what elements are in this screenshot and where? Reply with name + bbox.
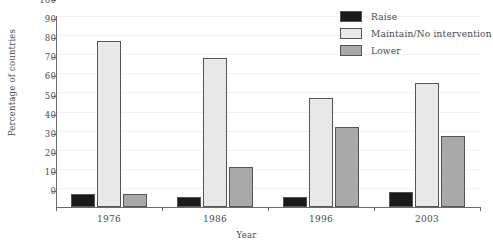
x-tick-mark xyxy=(374,207,375,211)
x-tick-label: 1986 xyxy=(185,214,245,224)
bar xyxy=(229,167,253,207)
legend-label-raise: Raise xyxy=(371,12,397,22)
bar xyxy=(309,98,333,207)
legend-item-raise: Raise xyxy=(340,9,492,24)
y-tick-mark xyxy=(52,0,56,1)
x-tick-label: 2003 xyxy=(397,214,457,224)
x-tick-label: 1996 xyxy=(291,214,351,224)
legend-item-lower: Lower xyxy=(340,43,492,58)
legend-swatch-raise xyxy=(340,11,362,22)
legend-swatch-maintain xyxy=(340,28,362,39)
y-axis-line xyxy=(56,16,57,208)
bar-group xyxy=(56,16,162,207)
bar xyxy=(283,197,307,207)
bar xyxy=(389,192,413,207)
bar xyxy=(203,58,227,207)
x-tick-mark xyxy=(480,207,481,211)
legend-label-maintain: Maintain/No intervention xyxy=(371,29,492,39)
x-axis-title: Year xyxy=(0,231,493,240)
bar-chart: 0102030405060708090100 Percentage of cou… xyxy=(0,0,493,249)
y-axis-title: Percentage of countries xyxy=(8,13,17,153)
bar xyxy=(335,127,359,207)
legend-swatch-lower xyxy=(340,45,362,56)
x-tick-mark xyxy=(56,207,57,211)
bar xyxy=(123,194,147,207)
bar xyxy=(97,41,121,207)
bar xyxy=(441,136,465,207)
x-tick-label: 1976 xyxy=(79,214,139,224)
bar-group xyxy=(162,16,268,207)
bar xyxy=(415,83,439,207)
legend: Raise Maintain/No intervention Lower xyxy=(340,9,492,60)
bar xyxy=(71,194,95,207)
x-tick-mark xyxy=(162,207,163,211)
legend-item-maintain: Maintain/No intervention xyxy=(340,26,492,41)
bar xyxy=(177,197,201,207)
x-tick-mark xyxy=(268,207,269,211)
legend-label-lower: Lower xyxy=(371,46,401,56)
